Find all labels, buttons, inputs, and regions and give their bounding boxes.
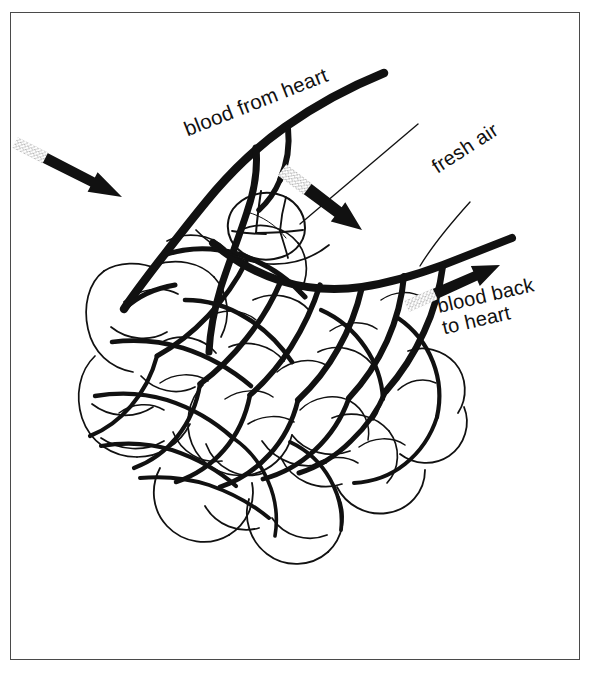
figure-root: blood from heart fresh air blood back to…	[0, 0, 590, 676]
fresh-air-leader-line	[300, 124, 418, 224]
alveoli-detail-inner-lines	[119, 293, 436, 465]
lung-illustration	[0, 0, 590, 676]
alveolus-detail	[196, 191, 329, 264]
blood-from-heart-arrow	[10, 133, 127, 207]
